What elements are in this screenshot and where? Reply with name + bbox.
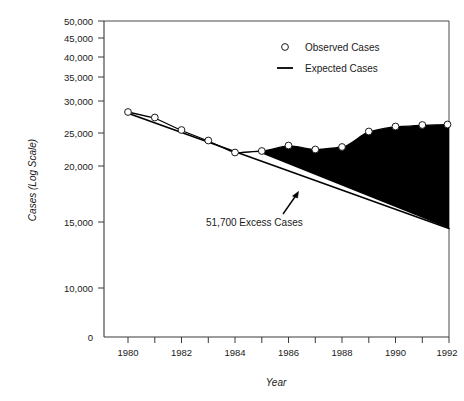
annotation-text: 51,700 Excess Cases: [206, 217, 303, 228]
x-tick-label-1986: 1986: [278, 347, 299, 358]
data-point-1989: [365, 128, 372, 135]
y-tick-label-25000: 25,000: [64, 128, 93, 139]
data-point-1982: [178, 127, 185, 134]
y-tick-label-15000: 15,000: [64, 217, 93, 228]
x-tick-label-1982: 1982: [171, 347, 192, 358]
data-point-1984: [232, 149, 239, 156]
data-point-1981: [151, 114, 158, 121]
data-point-1987: [312, 146, 319, 153]
y-tick-label-30000: 30,000: [64, 96, 93, 107]
data-point-1985: [258, 148, 265, 155]
x-tick-label-1990: 1990: [385, 347, 406, 358]
y-tick-label-50000: 50,000: [64, 16, 93, 27]
legend-label-observed: Observed Cases: [305, 42, 379, 53]
y-tick-label-45000: 45,000: [64, 33, 93, 44]
y-axis-title: Cases (Log Scale): [27, 139, 38, 221]
y-tick-label-10000: 10,000: [64, 283, 93, 294]
y-tick-label-40000: 40,000: [64, 52, 93, 63]
y-tick-label-35000: 35,000: [64, 72, 93, 83]
data-point-1980: [125, 109, 132, 116]
excess-cases-chart: 50,000 45,000 40,000 35,000 30,000 25,00…: [0, 0, 464, 401]
x-tick-label-1980: 1980: [117, 347, 138, 358]
data-point-1990: [392, 123, 399, 130]
y-tick-label-20000: 20,000: [64, 161, 93, 172]
data-point-1983: [205, 137, 212, 144]
data-point-1991: [419, 122, 426, 129]
data-point-1992: [444, 121, 451, 128]
x-axis-title: Year: [266, 377, 287, 388]
chart-figure: 50,000 45,000 40,000 35,000 30,000 25,00…: [0, 0, 464, 401]
legend-marker-observed-circle-icon: [282, 44, 289, 51]
x-tick-label-1984: 1984: [224, 347, 245, 358]
x-tick-label-1992: 1992: [436, 347, 457, 358]
y-tick-label-0: 0: [88, 332, 93, 343]
data-point-1988: [339, 144, 346, 151]
legend-label-expected: Expected Cases: [305, 63, 378, 74]
data-point-1986: [285, 142, 292, 149]
x-tick-label-1988: 1988: [331, 347, 352, 358]
